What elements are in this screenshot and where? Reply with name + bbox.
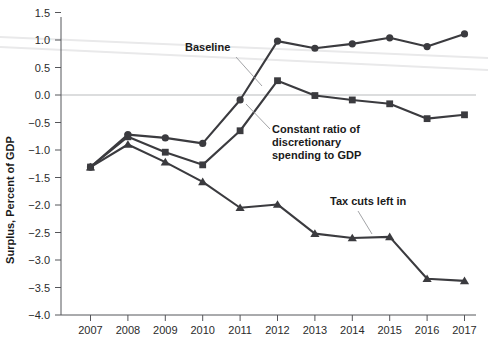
- y-tick-label: −2.0: [28, 199, 50, 211]
- annotation-label: Baseline: [185, 41, 230, 53]
- data-point-marker: [349, 97, 356, 104]
- data-point-marker: [237, 96, 244, 103]
- x-tick-label: 2007: [78, 324, 102, 336]
- x-tick-label: 2010: [190, 324, 214, 336]
- data-point-marker: [461, 111, 468, 118]
- y-tick-label: −1.0: [28, 144, 50, 156]
- chart-container: 1.51.00.50.0−0.5−1.0−1.5−2.0−2.5−3.0−3.5…: [0, 0, 488, 347]
- y-axis-title: Surplus, Percent of GDP: [4, 136, 16, 264]
- x-axis-tick-labels: 2007200820092010201120122013201420152016…: [78, 324, 476, 336]
- data-point-marker: [274, 77, 281, 84]
- y-tick-label: −2.5: [28, 227, 50, 239]
- data-point-marker: [424, 43, 431, 50]
- x-tick-label: 2016: [415, 324, 439, 336]
- y-tick-label: −3.0: [28, 254, 50, 266]
- y-tick-label: −4.0: [28, 309, 50, 321]
- data-point-marker: [349, 40, 356, 47]
- chart-background: [0, 0, 488, 347]
- data-point-marker: [162, 134, 169, 141]
- data-point-marker: [125, 133, 132, 140]
- y-tick-label: 0.5: [35, 62, 50, 74]
- data-point-marker: [162, 149, 169, 156]
- x-tick-label: 2013: [303, 324, 327, 336]
- data-point-marker: [386, 100, 393, 107]
- data-point-marker: [274, 38, 281, 45]
- x-tick-label: 2008: [116, 324, 140, 336]
- x-tick-label: 2017: [452, 324, 476, 336]
- x-tick-label: 2011: [228, 324, 252, 336]
- data-point-marker: [199, 140, 206, 147]
- data-point-marker: [237, 127, 244, 134]
- y-tick-label: 0.0: [35, 89, 50, 101]
- y-tick-label: 1.5: [35, 7, 50, 19]
- x-tick-label: 2015: [377, 324, 401, 336]
- x-tick-label: 2012: [265, 324, 289, 336]
- data-point-marker: [312, 92, 319, 99]
- data-point-marker: [386, 34, 393, 41]
- x-tick-label: 2014: [340, 324, 364, 336]
- data-point-marker: [311, 45, 318, 52]
- data-point-marker: [461, 30, 468, 37]
- x-tick-label: 2009: [153, 324, 177, 336]
- annotation-label: Tax cuts left in: [330, 195, 406, 207]
- y-tick-label: 1.0: [35, 34, 50, 46]
- surplus-percent-gdp-line-chart: 1.51.00.50.0−0.5−1.0−1.5−2.0−2.5−3.0−3.5…: [0, 0, 488, 347]
- data-point-marker: [424, 115, 431, 122]
- data-point-marker: [199, 161, 206, 168]
- y-tick-label: −1.5: [28, 172, 50, 184]
- y-tick-label: −3.5: [28, 282, 50, 294]
- y-tick-label: −0.5: [28, 117, 50, 129]
